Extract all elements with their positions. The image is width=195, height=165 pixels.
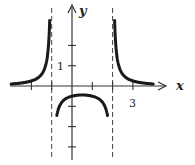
vertical-asymptotes [52,8,113,160]
y-axis-label: y [78,3,88,18]
y-tick-label-1: 1 [57,60,64,73]
curve-branch-1 [57,95,108,116]
curve-branch-2 [115,21,154,85]
x-tick-label-3: 3 [129,97,136,110]
function-graph: y x 1 3 [0,0,195,165]
x-axis-label: x [175,78,184,93]
curve-branch-0 [11,21,50,85]
